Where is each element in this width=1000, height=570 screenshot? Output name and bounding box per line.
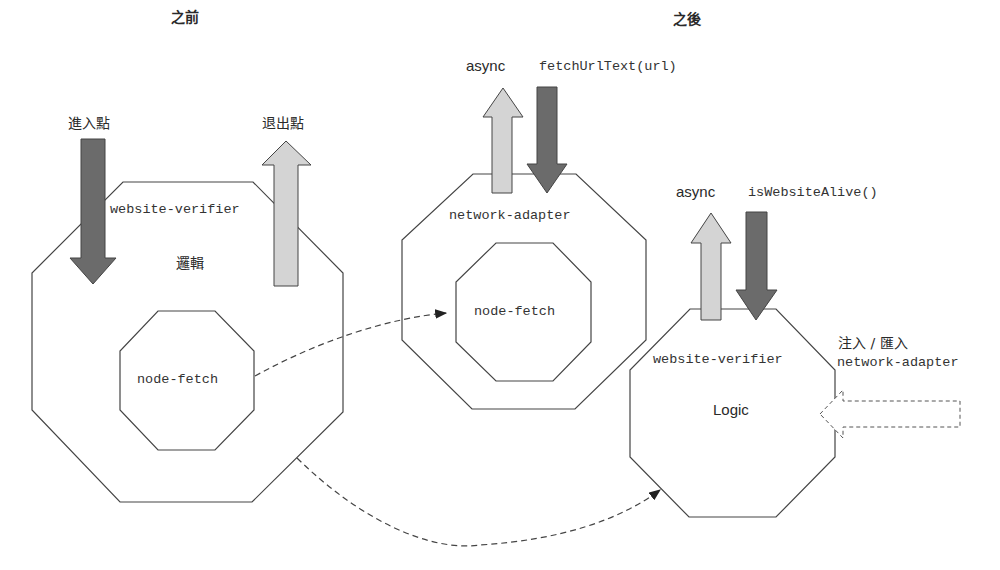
logic-label-after: Logic <box>713 401 749 418</box>
is-website-alive-label: isWebsiteAlive() <box>748 185 878 200</box>
heading-after: 之後 <box>673 8 701 28</box>
website-verifier-label-before: website-verifier <box>110 202 240 217</box>
inject-network-adapter-label: network-adapter <box>837 355 959 370</box>
entry-point-label: 進入點 <box>68 112 110 132</box>
async-label-adapter: async <box>466 57 505 74</box>
inject-arrow-icon <box>820 390 960 438</box>
heading-before: 之前 <box>171 6 199 26</box>
diagram-canvas: 之前 之後 進入點 退出點 website-verifier 邏輯 node-f… <box>0 0 1000 570</box>
exit-point-label: 退出點 <box>262 112 304 132</box>
async-return-arrow-icon-2 <box>691 213 731 320</box>
node-fetch-label-before: node-fetch <box>137 372 218 387</box>
node-fetch-label-after: node-fetch <box>474 304 555 319</box>
inject-import-label: 注入 / 匯入 <box>838 332 908 352</box>
network-adapter-label: network-adapter <box>449 208 571 223</box>
diagram-shapes <box>0 0 1000 570</box>
website-verifier-label-after: website-verifier <box>653 352 783 367</box>
move-logic-arrow <box>297 458 660 546</box>
async-label-verifier: async <box>676 183 715 200</box>
is-alive-call-arrow-icon <box>736 212 777 320</box>
fetch-url-text-label: fetchUrlText(url) <box>539 59 677 74</box>
logic-label-before: 邏輯 <box>176 252 204 272</box>
